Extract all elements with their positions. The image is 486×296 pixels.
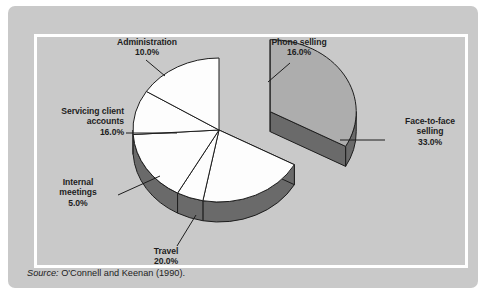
slice-label-servicing-client-accounts-name1: Servicing client [22,106,124,116]
leader-line-administration [146,60,165,76]
slice-label-administration: Administration 10.0% [92,37,202,58]
leader-line-travel [177,215,196,246]
slice-label-travel-name: Travel [131,246,201,256]
slice-label-face-to-face-selling-value: 33.0% [389,137,471,147]
slice-label-servicing-client-accounts-name2: accounts [22,116,124,126]
slice-label-internal-meetings-name1: Internal [40,177,116,187]
figure-root: Administration 10.0% Phone selling 16.0%… [0,0,486,296]
slice-label-administration-name: Administration [92,37,202,47]
source-caption-text: O'Connell and Keenan (1990). [59,268,185,278]
source-caption: Source: O'Connell and Keenan (1990). [27,268,185,278]
slice-label-travel-value: 20.0% [131,256,201,266]
pie-chart [0,0,486,296]
slice-label-administration-value: 10.0% [92,47,202,57]
slice-label-internal-meetings: Internal meetings 5.0% [40,177,116,208]
slice-label-face-to-face-selling-name1: Face-to-face [389,116,471,126]
slice-label-servicing-client-accounts: Servicing client accounts 16.0% [22,106,124,137]
slice-label-internal-meetings-value: 5.0% [40,198,116,208]
slice-label-phone-selling-value: 16.0% [247,47,351,57]
pie-slices-layer [133,40,356,222]
slice-label-internal-meetings-name2: meetings [40,187,116,197]
slice-label-phone-selling: Phone selling 16.0% [247,37,351,58]
slice-label-phone-selling-name: Phone selling [247,37,351,47]
slice-label-servicing-client-accounts-value: 16.0% [22,127,124,137]
slice-label-travel: Travel 20.0% [131,246,201,267]
slice-label-face-to-face-selling: Face-to-face selling 33.0% [389,116,471,147]
slice-label-face-to-face-selling-name2: selling [389,126,471,136]
source-caption-prefix: Source: [27,268,59,278]
